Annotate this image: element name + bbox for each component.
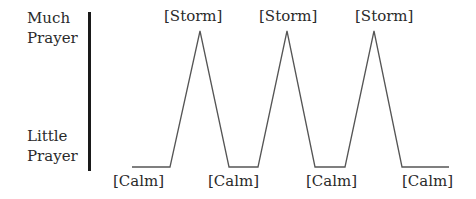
- prayer-line-chart: [0, 0, 476, 199]
- prayer-intensity-line: [132, 31, 449, 167]
- trough-label-calm-3: [Calm]: [306, 172, 357, 190]
- peak-label-storm-1: [Storm]: [164, 7, 222, 25]
- trough-label-calm-2: [Calm]: [208, 172, 259, 190]
- trough-label-calm-1: [Calm]: [113, 172, 164, 190]
- trough-label-calm-4: [Calm]: [402, 172, 453, 190]
- peak-label-storm-3: [Storm]: [355, 7, 413, 25]
- peak-label-storm-2: [Storm]: [259, 7, 317, 25]
